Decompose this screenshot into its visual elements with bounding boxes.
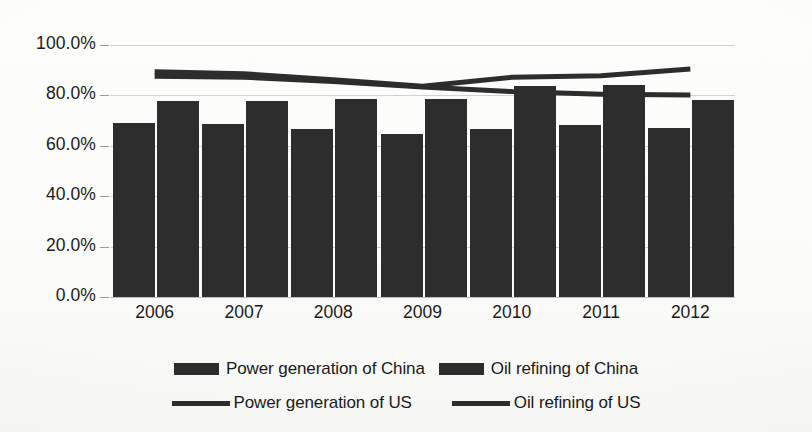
y-axis-tick-mark <box>100 247 109 248</box>
y-axis-tick-mark <box>100 95 109 96</box>
y-axis-tick-label: 20.0% <box>46 235 96 256</box>
legend-item[interactable]: Oil refining of China <box>439 359 638 379</box>
line-series-layer <box>110 45 735 297</box>
legend-label: Oil refining of China <box>491 359 638 379</box>
chart-figure: 100.0%80.0%60.0%40.0%20.0%0.0% 200620072… <box>0 0 812 432</box>
plot-area <box>110 45 735 297</box>
y-axis-tick-mark <box>100 146 109 147</box>
y-axis-tick-label: 0.0% <box>56 285 96 306</box>
x-axis-tick-label: 2010 <box>467 302 556 323</box>
legend-swatch-line-icon <box>452 401 510 406</box>
x-axis-tick-label: 2012 <box>646 302 735 323</box>
legend-swatch-box-icon <box>439 363 484 375</box>
legend-row-2: Power generation of USOil refining of US <box>0 386 812 420</box>
y-axis-tick-label: 80.0% <box>46 83 96 104</box>
legend-item[interactable]: Oil refining of US <box>452 393 641 413</box>
x-axis-tick-label: 2006 <box>110 302 199 323</box>
legend-swatch-box-icon <box>174 363 219 375</box>
x-axis-tick-label: 2008 <box>289 302 378 323</box>
y-axis-tick-mark <box>100 196 109 197</box>
chart-legend: Power generation of ChinaOil refining of… <box>0 352 812 420</box>
gridline <box>110 297 735 298</box>
legend-label: Power generation of China <box>226 359 425 379</box>
legend-swatch-line-icon <box>172 401 230 406</box>
legend-item[interactable]: Power generation of US <box>172 393 412 413</box>
x-axis-tick-label: 2007 <box>199 302 288 323</box>
legend-row-1: Power generation of ChinaOil refining of… <box>0 352 812 386</box>
x-axis-labels: 2006200720082009201020112012 <box>110 302 735 332</box>
legend-label: Oil refining of US <box>514 393 641 413</box>
y-axis-tick-mark <box>100 297 109 298</box>
x-axis-tick-label: 2011 <box>556 302 645 323</box>
legend-label: Power generation of US <box>234 393 412 413</box>
x-axis-tick-label: 2009 <box>378 302 467 323</box>
y-axis-tick-label: 100.0% <box>36 33 96 54</box>
y-axis-tick-label: 40.0% <box>46 184 96 205</box>
y-axis-tick-label: 60.0% <box>46 134 96 155</box>
legend-item[interactable]: Power generation of China <box>174 359 425 379</box>
y-axis-tick-mark <box>100 45 109 46</box>
